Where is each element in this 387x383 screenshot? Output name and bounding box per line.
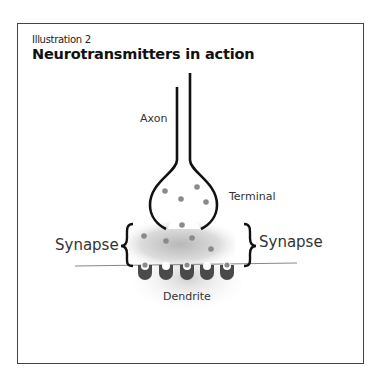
axon-label: Axon xyxy=(140,112,167,125)
terminal-label: Terminal xyxy=(229,190,276,203)
axon-right-wall xyxy=(190,73,217,229)
synapse-left-label: Synapse xyxy=(55,236,119,254)
synapse-diagram xyxy=(0,0,387,383)
dendrite-label: Dendrite xyxy=(163,290,211,303)
synapse-right-label: Synapse xyxy=(259,233,323,251)
axon-left-wall xyxy=(150,87,177,229)
right-brace xyxy=(244,224,256,266)
